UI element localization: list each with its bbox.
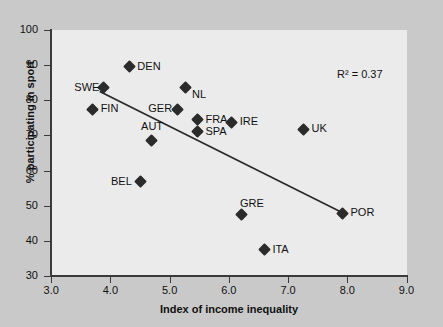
x-tick-5.0: [170, 277, 171, 283]
y-tick-label-40: 40: [10, 235, 38, 246]
y-tick-40: [44, 241, 51, 242]
y-tick-30: [44, 276, 51, 277]
y-tick-60: [44, 171, 51, 172]
data-point-label-den: DEN: [137, 61, 160, 72]
plot-panel: [51, 30, 407, 276]
data-point-label-gre: GRE: [240, 198, 264, 209]
data-point-label-aut: AUT: [141, 121, 163, 132]
data-point-label-uk: UK: [311, 123, 326, 134]
x-tick-9.0: [407, 277, 408, 283]
data-point-label-por: POR: [351, 207, 375, 218]
data-point-label-ire: IRE: [240, 116, 258, 127]
x-tick-8.0: [347, 277, 348, 283]
data-point-label-swe: SWE: [74, 82, 99, 93]
data-point-label-nl: NL: [192, 89, 206, 100]
y-tick-50: [44, 206, 51, 207]
x-tick-label-5.0: 5.0: [150, 285, 190, 296]
r-squared-annotation: R² = 0.37: [337, 68, 383, 80]
data-point-label-fra: FRA: [205, 114, 227, 125]
x-axis-label: Index of income inequality: [51, 303, 407, 315]
y-tick-80: [44, 100, 51, 101]
data-point-label-ger: GER: [148, 103, 172, 114]
x-tick-4.0: [110, 277, 111, 283]
x-tick-label-8.0: 8.0: [327, 285, 367, 296]
y-tick-70: [44, 135, 51, 136]
data-point-label-spa: SPA: [205, 126, 226, 137]
x-tick-label-9.0: 9.0: [387, 285, 427, 296]
y-axis-line: [50, 29, 52, 277]
y-axis-label: % participating in sport: [24, 22, 36, 222]
y-tick-label-30: 30: [10, 270, 38, 281]
y-tick-90: [44, 65, 51, 66]
x-tick-7.0: [288, 277, 289, 283]
x-tick-6.0: [229, 277, 230, 283]
x-tick-label-4.0: 4.0: [90, 285, 130, 296]
data-point-label-bel: BEL: [111, 176, 132, 187]
data-point-label-fin: FIN: [101, 103, 119, 114]
x-tick-label-7.0: 7.0: [268, 285, 308, 296]
x-tick-label-3.0: 3.0: [31, 285, 71, 296]
y-tick-100: [44, 30, 51, 31]
x-tick-label-6.0: 6.0: [209, 285, 249, 296]
x-tick-3.0: [51, 277, 52, 283]
scatter-plot-figure: 30405060708090100 3.04.05.06.07.08.09.0 …: [0, 0, 443, 327]
data-point-label-ita: ITA: [272, 244, 288, 255]
